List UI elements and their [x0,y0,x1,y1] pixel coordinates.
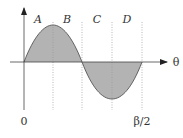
region-label-c: C [93,13,102,26]
end-label: β/2 [133,115,150,128]
origin-label: 0 [21,115,28,128]
region-label-a: A [33,13,42,26]
region-label-d: D [122,13,132,26]
x-axis-label: θ [173,56,180,69]
sine-diagram: A B C D θ 0 β/2 [0,0,183,138]
region-label-b: B [62,13,71,26]
